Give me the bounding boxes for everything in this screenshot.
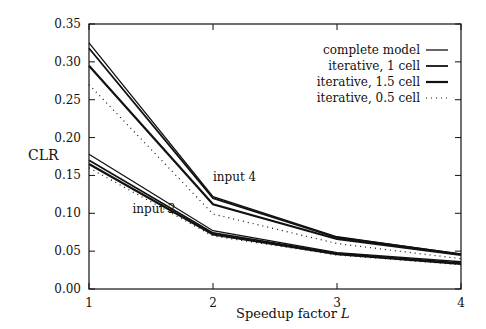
y-tick-label: 0.20 (54, 131, 81, 145)
y-tick-label: 0.10 (54, 206, 81, 220)
x-axis-label: Speedup factor L (236, 306, 350, 321)
legend-label: complete model (323, 43, 420, 57)
x-tick-label: 4 (457, 296, 465, 310)
x-tick-label: 2 (209, 296, 217, 310)
y-tick-label: 0.30 (54, 55, 81, 69)
y-tick-label: 0.35 (54, 17, 81, 31)
y-tick-label: 0.05 (54, 244, 81, 258)
legend-label: iterative, 0.5 cell (317, 91, 420, 105)
clr-line-chart: 0.000.050.100.150.200.250.300.35 1234 in… (0, 0, 486, 329)
annotation-label: input 4 (213, 170, 257, 184)
legend: complete modeliterative, 1 celliterative… (317, 43, 448, 105)
annotation-label: input 2 (132, 202, 175, 216)
legend-label: iterative, 1.5 cell (317, 75, 420, 89)
y-axis-label: CLR (28, 147, 59, 163)
y-tick-label: 0.15 (54, 168, 81, 182)
y-tick-label: 0.00 (54, 282, 81, 296)
legend-label: iterative, 1 cell (328, 59, 420, 73)
y-tick-label: 0.25 (54, 93, 81, 107)
series-line (89, 85, 461, 259)
x-tick-label: 1 (85, 296, 93, 310)
